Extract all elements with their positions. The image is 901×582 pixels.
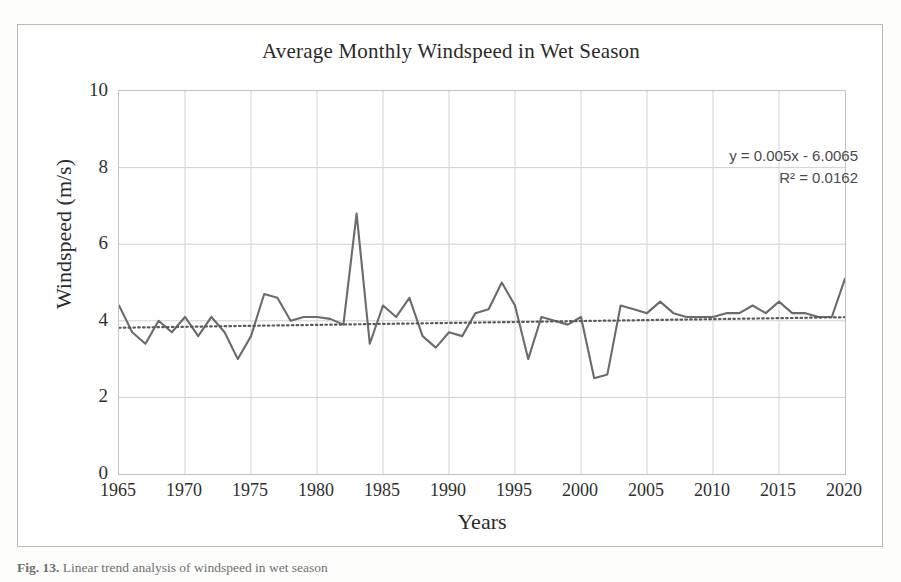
x-tick-label: 1985: [347, 480, 417, 501]
figure-page: Average Monthly Windspeed in Wet Season …: [0, 0, 901, 582]
linear-trendline: [119, 317, 845, 328]
y-axis-title: Windspeed (m/s): [51, 84, 77, 384]
x-tick-label: 1975: [215, 480, 285, 501]
x-tick-label: 2000: [545, 480, 615, 501]
figure-caption: Fig. 13. Linear trend analysis of windsp…: [17, 560, 883, 576]
x-tick-label: 2020: [809, 480, 879, 501]
x-tick-label: 1980: [281, 480, 351, 501]
x-tick-label: 1990: [413, 480, 483, 501]
x-tick-label: 1970: [149, 480, 219, 501]
trendline-annotation: y = 0.005x - 6.0065 R² = 0.0162: [578, 145, 858, 189]
chart-frame: Average Monthly Windspeed in Wet Season …: [17, 24, 883, 547]
windspeed-data-line: [119, 214, 845, 379]
trendline-equation: y = 0.005x - 6.0065: [578, 145, 858, 167]
x-tick-label: 1965: [83, 480, 153, 501]
x-tick-label: 1995: [479, 480, 549, 501]
x-axis-tick-labels: 1965197019751980198519901995200020052010…: [118, 480, 846, 506]
x-tick-label: 2005: [611, 480, 681, 501]
x-tick-label: 2010: [677, 480, 747, 501]
chart-title: Average Monthly Windspeed in Wet Season: [18, 39, 884, 64]
trendline-r-squared: R² = 0.0162: [578, 167, 858, 189]
x-tick-label: 2015: [743, 480, 813, 501]
figure-caption-text: Linear trend analysis of windspeed in we…: [63, 560, 328, 575]
y-tick-label: 2: [68, 385, 108, 407]
figure-caption-prefix: Fig. 13.: [17, 560, 59, 575]
x-axis-title: Years: [118, 509, 846, 535]
